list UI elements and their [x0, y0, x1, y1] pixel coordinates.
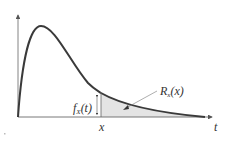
x-tick-label: x — [98, 120, 105, 134]
stray-mark — [4, 133, 6, 135]
r-label: Rx(x) — [159, 84, 184, 99]
reliability-diagram: fX(t) Rx(x) x t — [0, 0, 225, 141]
area-pointer-line — [126, 91, 157, 108]
fx-label: fX(t) — [73, 101, 92, 116]
shaded-tail-area — [101, 93, 205, 117]
t-axis-label: t — [214, 120, 218, 134]
